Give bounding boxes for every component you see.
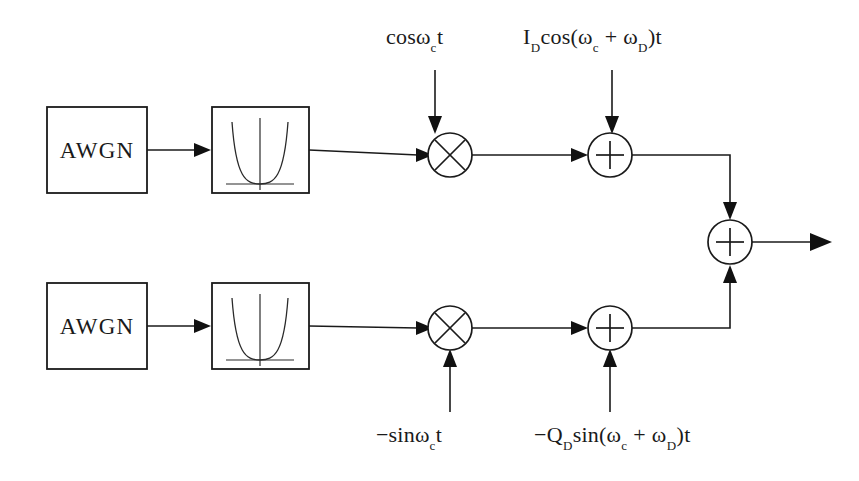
wire-awgn-to-filter-lower bbox=[147, 319, 211, 333]
awgn-box-upper: AWGN bbox=[47, 107, 147, 193]
arrow-right-icon bbox=[194, 319, 211, 333]
arrow-right-icon bbox=[810, 233, 832, 251]
mixer-lower bbox=[428, 306, 472, 350]
wire-filter-to-mixer-lower bbox=[309, 321, 433, 335]
interference-label-upper-sub3: D bbox=[638, 40, 648, 55]
interference-injection-lower bbox=[603, 349, 617, 412]
wire-mixer-to-adder-lower bbox=[472, 321, 588, 335]
interference-label-lower-sub: D bbox=[563, 438, 573, 453]
interference-label-lower-sub2: c bbox=[621, 438, 627, 453]
wire-lower-to-combiner bbox=[632, 265, 737, 328]
arrow-right-icon bbox=[194, 143, 211, 157]
arrow-right-icon bbox=[571, 321, 588, 335]
interference-injection-upper bbox=[605, 70, 619, 134]
diagram-svg: AWGN bbox=[0, 0, 859, 481]
carrier-label-lower-sub: c bbox=[430, 438, 436, 453]
wire-awgn-to-filter-upper bbox=[147, 143, 211, 157]
interference-label-upper-mid: + ω bbox=[599, 24, 638, 49]
carrier-label-upper-tail: t bbox=[437, 24, 443, 49]
interference-label-lower: −QDsin(ωc + ωD)t bbox=[534, 424, 691, 449]
interference-label-lower-tail: )t bbox=[677, 422, 691, 447]
carrier-label-lower-main: −sinω bbox=[376, 422, 430, 447]
adder-upper bbox=[588, 133, 632, 177]
awgn-label-lower: AWGN bbox=[60, 314, 135, 339]
arrow-up-icon bbox=[603, 349, 617, 367]
arrow-up-icon bbox=[723, 265, 737, 283]
filter-box-upper bbox=[212, 107, 309, 193]
awgn-label-upper: AWGN bbox=[60, 138, 135, 163]
output-summing-junction bbox=[708, 220, 752, 264]
carrier-injection-upper bbox=[428, 70, 442, 134]
filter-box-lower bbox=[212, 283, 309, 369]
carrier-label-upper-sub: c bbox=[431, 40, 437, 55]
block-diagram-canvas: AWGN bbox=[0, 0, 859, 481]
interference-label-upper-prefix: I bbox=[523, 24, 531, 49]
interference-label-upper-sub2: c bbox=[593, 40, 599, 55]
interference-label-lower-fn: sin(ω bbox=[573, 422, 621, 447]
arrow-down-icon bbox=[605, 116, 619, 134]
interference-label-upper-sub: D bbox=[531, 40, 541, 55]
arrow-down-icon bbox=[428, 116, 442, 134]
carrier-label-upper: cosωct bbox=[386, 26, 443, 51]
interference-label-upper: IDcos(ωc + ωD)t bbox=[523, 26, 662, 51]
wire-mixer-to-adder-upper bbox=[472, 148, 588, 162]
arrow-down-icon bbox=[723, 202, 737, 220]
wire-output bbox=[752, 233, 832, 251]
wire-upper-to-combiner bbox=[632, 155, 737, 220]
carrier-label-upper-main: cosω bbox=[386, 24, 431, 49]
interference-label-upper-fn: cos(ω bbox=[541, 24, 593, 49]
interference-label-lower-mid: + ω bbox=[628, 422, 667, 447]
interference-label-upper-tail: )t bbox=[648, 24, 662, 49]
mixer-upper bbox=[428, 133, 472, 177]
adder-lower bbox=[588, 306, 632, 350]
awgn-box-lower: AWGN bbox=[47, 283, 147, 369]
arrow-right-icon bbox=[571, 148, 588, 162]
wire-filter-to-mixer-upper bbox=[309, 148, 433, 162]
interference-label-lower-prefix: −Q bbox=[534, 422, 563, 447]
carrier-injection-lower bbox=[443, 349, 457, 412]
arrow-up-icon bbox=[443, 349, 457, 367]
carrier-label-lower-tail: t bbox=[436, 422, 442, 447]
carrier-label-lower: −sinωct bbox=[376, 424, 442, 449]
interference-label-lower-sub3: D bbox=[667, 438, 677, 453]
